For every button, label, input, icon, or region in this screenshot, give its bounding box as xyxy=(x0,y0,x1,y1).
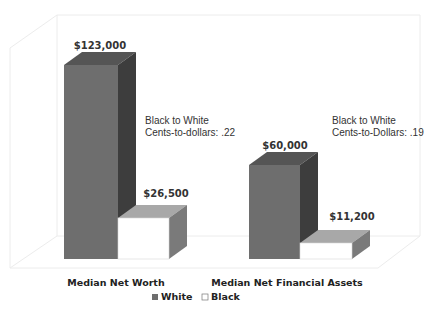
data-label-black-financial-assets: $11,200 xyxy=(329,211,375,222)
data-label-white-net-worth: $123,000 xyxy=(74,40,127,51)
annotation-ratio-net-worth-line2: Cents-to-dollars: .22 xyxy=(145,127,235,138)
bar-black-net-worth[interactable] xyxy=(118,205,187,259)
category-label-net-worth: Median Net Worth xyxy=(67,277,165,288)
legend-swatch-black xyxy=(202,294,208,300)
legend: White Black xyxy=(152,291,241,302)
data-label-black-net-worth: $26,500 xyxy=(143,188,189,199)
data-label-white-financial-assets: $60,000 xyxy=(262,140,308,151)
legend-label-white: White xyxy=(161,291,192,302)
chart-canvas: $123,000 $26,500 $60,000 $11,200 Black t… xyxy=(0,0,434,313)
category-label-financial-assets: Median Net Financial Assets xyxy=(211,277,363,288)
annotation-ratio-financial-line2: Cents-to-Dollars: .19 xyxy=(332,127,424,138)
annotation-ratio-financial-line1: Black to White xyxy=(332,115,396,126)
legend-label-black: Black xyxy=(211,291,241,302)
legend-swatch-white xyxy=(152,294,158,300)
annotation-ratio-net-worth-line1: Black to White xyxy=(145,115,209,126)
